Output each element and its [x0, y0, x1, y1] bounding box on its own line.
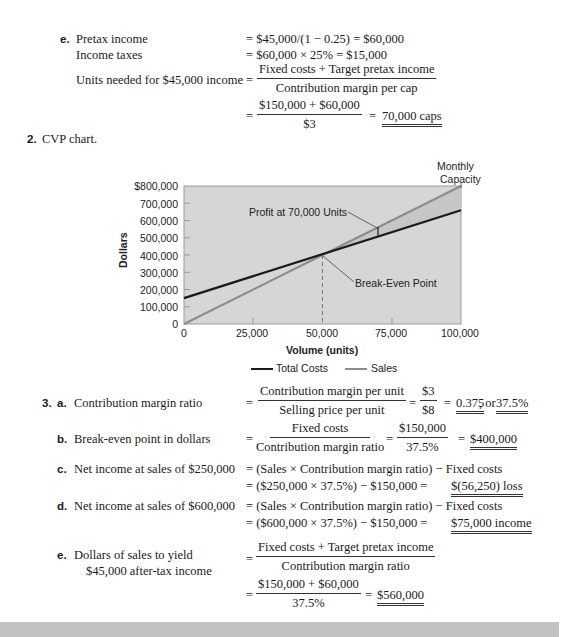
plot-area	[180, 182, 470, 330]
item-label-c: c.	[57, 464, 67, 476]
fraction-denominator: Contribution margin ratio	[256, 438, 384, 454]
x-tick: 25,000	[236, 327, 268, 339]
fraction-denominator: $8	[422, 401, 435, 417]
equals-sign: =	[409, 397, 416, 410]
y-tick: 200,000	[116, 284, 178, 296]
fraction-denominator: Contribution margin per cap	[276, 79, 418, 95]
item-label-d: d.	[57, 501, 67, 513]
y-tick: 300,000	[116, 267, 178, 279]
equals-sign: =	[246, 433, 253, 446]
cm-ratio-values-fraction: $3 $8	[420, 385, 437, 417]
y-tick: 100,000	[116, 301, 178, 313]
net-income-600k-result: $75,000 income	[451, 517, 532, 534]
cm-ratio-result-percent: 37.5%	[496, 397, 528, 414]
equals-sign: =	[246, 74, 253, 87]
units-values-fraction: $150,000 + $60,000 $3	[257, 99, 362, 131]
net-income-600k-label: Net income at sales of $600,000	[74, 500, 235, 513]
fraction-numerator: $3	[420, 385, 437, 401]
equals-sign: =	[246, 589, 253, 602]
dollars-sales-result: $560,000	[377, 589, 424, 606]
fraction-numerator: Fixed costs	[270, 422, 371, 438]
units-needed-label: Units needed for $45,000 income	[76, 74, 243, 87]
part2-number: 2.	[27, 134, 37, 146]
x-tick: 50,000	[306, 327, 338, 339]
units-result: 70,000 caps	[382, 110, 442, 127]
equals-sign: =	[386, 433, 393, 446]
page-footer-band	[0, 622, 559, 637]
dollars-sales-fraction: Fixed costs + Target pretax income Contr…	[256, 541, 435, 573]
fraction-denominator: Selling price per unit	[279, 401, 384, 417]
fraction-numerator: Fixed costs + Target pretax income	[256, 541, 435, 557]
y-tick: 600,000	[116, 215, 178, 227]
item-label-a: a.	[57, 398, 67, 410]
dollars-sales-label-line1: Dollars of sales to yield	[74, 549, 193, 562]
x-tick: 75,000	[375, 327, 407, 339]
fraction-denominator: 37.5%	[292, 594, 324, 610]
legend-total-costs-swatch	[251, 368, 273, 370]
y-tick: 0	[116, 318, 178, 330]
break-even-values-fraction: $150,000 37.5%	[397, 422, 448, 454]
dollars-sales-label-line2: $45,000 after-tax income	[86, 565, 212, 578]
equals-sign: =	[246, 397, 253, 410]
net-income-600k-calc: = ($600,000 × 37.5%) − $150,000 =	[246, 517, 427, 530]
part2-title: CVP chart.	[42, 133, 97, 146]
item-label-b: b.	[57, 434, 67, 446]
equals-sign: =	[444, 397, 451, 410]
profit-annotation: Profit at 70,000 Units	[249, 206, 347, 218]
net-income-250k-calc: = ($250,000 × 37.5%) − $150,000 =	[246, 480, 427, 493]
dollars-sales-values-fraction: $150,000 + $60,000 37.5%	[256, 578, 361, 610]
or-text: , or	[479, 397, 496, 410]
fraction-denominator: $3	[303, 115, 316, 131]
pretax-income-expr: = $45,000/(1 − 0.25) = $60,000	[246, 33, 404, 46]
net-income-250k-label: Net income at sales of $250,000	[74, 463, 235, 476]
cm-ratio-fraction: Contribution margin per unit Selling pri…	[258, 385, 406, 417]
break-even-annotation: Break-Even Point	[355, 277, 437, 289]
equals-sign: =	[246, 110, 253, 123]
monthly-capacity-label-line1: Monthly	[437, 160, 474, 172]
y-tick: $800,000	[116, 180, 178, 192]
equals-sign: =	[246, 553, 253, 566]
equals-sign: =	[458, 433, 465, 446]
cm-ratio-label: Contribution margin ratio	[74, 397, 202, 410]
pretax-income-label: Pretax income	[76, 33, 148, 46]
x-tick: 100,000	[441, 327, 479, 339]
item-label-e: e.	[57, 550, 67, 562]
fraction-numerator: Contribution margin per unit	[258, 385, 406, 401]
net-income-250k-result: $(56,250) loss	[451, 480, 523, 497]
net-income-250k-formula: = (Sales × Contribution margin ratio) − …	[246, 463, 502, 476]
net-income-600k-formula: = (Sales × Contribution margin ratio) − …	[246, 500, 502, 513]
fraction-numerator: $150,000	[397, 422, 448, 438]
legend-total-costs-label: Total Costs	[276, 362, 328, 374]
part3-number: 3.	[42, 398, 52, 410]
item-label-e: e.	[60, 34, 70, 46]
legend-sales-label: Sales	[371, 362, 397, 374]
fraction-numerator: Fixed costs + Target pretax income	[257, 63, 436, 79]
fraction-numerator: $150,000 + $60,000	[257, 99, 362, 115]
break-even-fraction: Fixed costs Contribution margin ratio	[256, 422, 384, 454]
equals-sign: =	[365, 589, 372, 602]
y-axis-label: Dollars	[117, 232, 129, 268]
break-even-dollars-result: $400,000	[470, 433, 517, 450]
break-even-dollars-label: Break-even point in dollars	[74, 433, 210, 446]
fraction-denominator: Contribution margin ratio	[282, 557, 410, 573]
legend-sales-swatch	[345, 368, 367, 370]
x-axis-label: Volume (units)	[286, 344, 358, 356]
fraction-denominator: 37.5%	[406, 438, 438, 454]
income-taxes-label: Income taxes	[76, 49, 142, 62]
x-tick: 0	[181, 327, 187, 339]
y-tick: 700,000	[116, 198, 178, 210]
income-taxes-expr: = $60,000 × 25% = $15,000	[246, 49, 387, 62]
fraction-numerator: $150,000 + $60,000	[256, 578, 361, 594]
units-formula-fraction: Fixed costs + Target pretax income Contr…	[257, 63, 436, 95]
